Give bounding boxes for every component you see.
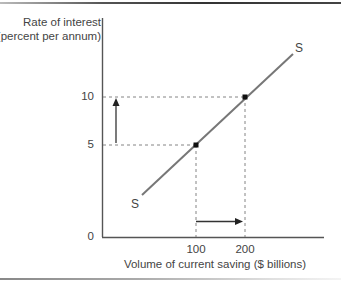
curve-label-s-end: S <box>295 41 303 55</box>
y-tick-5: 5 <box>70 138 94 150</box>
y-tick-10: 10 <box>70 90 94 102</box>
x-tick-100: 100 <box>181 243 211 255</box>
x-tick-200: 200 <box>230 243 260 255</box>
arrow-right-icon <box>196 218 243 225</box>
origin-label: 0 <box>70 230 94 242</box>
curve-label-s-start: S <box>131 197 139 211</box>
point-100-5 <box>194 143 199 148</box>
point-200-10 <box>243 95 248 100</box>
bottom-rule <box>0 278 341 280</box>
x-axis-label: Volume of current saving ($ billions) <box>100 258 330 270</box>
arrow-up-icon <box>113 98 120 143</box>
supply-curve-s <box>142 54 293 195</box>
plot-area <box>0 0 341 285</box>
